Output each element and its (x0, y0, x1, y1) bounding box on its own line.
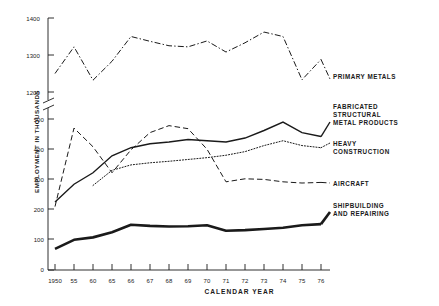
employment-line-chart: EMPLOYMENT IN THOUSANDS CALENDAR YEAR 14… (0, 0, 439, 306)
leader-fabricated-structural-metal-products (321, 122, 330, 137)
y-axis-break-marks (43, 98, 54, 110)
x-tick-marks (55, 264, 321, 270)
series-line-fabricated-structural-metal-products (55, 122, 321, 202)
leader-primary-metals (321, 59, 330, 79)
leader-aircraft (321, 182, 330, 183)
series-line-shipbuilding-and-repairing (55, 224, 321, 249)
y-tick-marks (48, 18, 54, 270)
series-line-heavy-construction (93, 141, 321, 186)
leader-shipbuilding-and-repairing (321, 212, 330, 224)
series-line-primary-metals (55, 32, 321, 80)
series-line-aircraft (55, 126, 321, 207)
leader-heavy-construction (321, 143, 330, 148)
plot-area (0, 0, 439, 306)
